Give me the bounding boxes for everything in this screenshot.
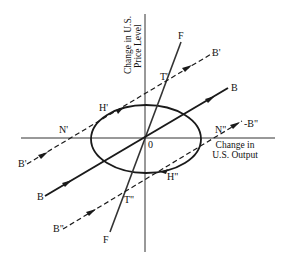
b-arrow-right-icon xyxy=(205,96,215,103)
y-axis-label-line2: Price Level xyxy=(133,24,143,68)
t-double-prime-label: T" xyxy=(124,194,134,205)
policy-diagram: Change in U.S. Price Level Change in U.S… xyxy=(0,0,292,261)
origin-label: 0 xyxy=(148,139,153,150)
b-double-prime-right-label: -B" xyxy=(244,118,258,129)
ellipse-curve xyxy=(91,105,201,173)
h-double-prime-label: H" xyxy=(167,171,178,182)
t-prime-label: T' xyxy=(160,71,168,82)
x-axis-label-line1: Change in xyxy=(216,140,255,150)
b-double-prime-arrow-left-icon xyxy=(86,209,96,216)
b-prime-right-label: B' xyxy=(212,47,221,58)
b-double-prime-left-label: B" xyxy=(53,223,64,234)
f-top-label: F xyxy=(178,30,184,41)
b-prime-arrow-left-icon xyxy=(38,152,48,159)
b-prime-left-label: B' xyxy=(18,158,27,169)
h-prime-label: H' xyxy=(99,102,108,113)
n-prime-label: N' xyxy=(59,124,68,135)
f-bottom-label: F xyxy=(103,234,109,245)
y-axis-label-line1: Change in U.S. xyxy=(123,16,133,74)
b-left-label: B xyxy=(37,191,44,202)
b-prime-arrow-right-icon xyxy=(182,65,192,72)
x-axis-label-line2: U.S. Output xyxy=(212,150,258,160)
b-right-label: B xyxy=(231,82,238,93)
n-double-prime-label: N" xyxy=(215,124,226,135)
